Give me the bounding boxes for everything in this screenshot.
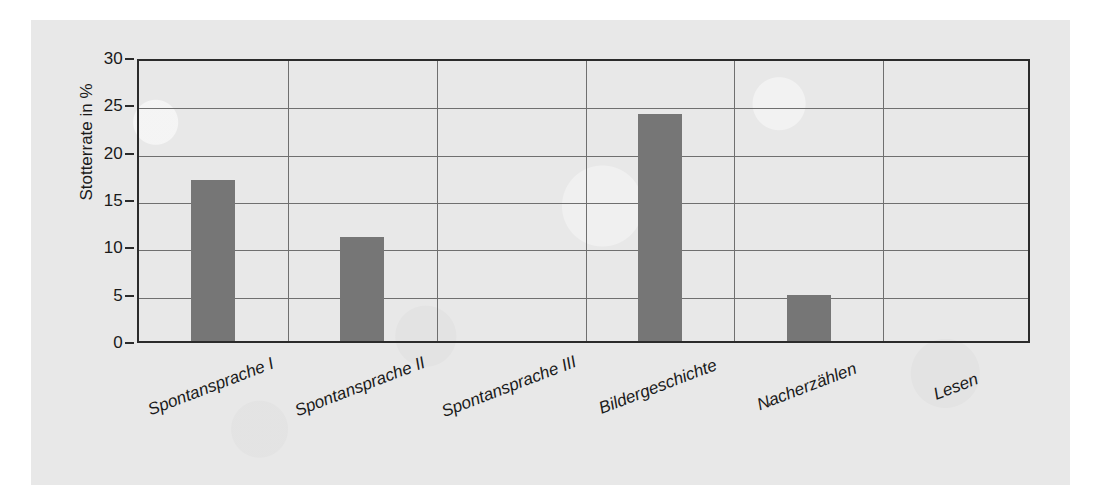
y-tick-label-5: 5 xyxy=(113,286,123,306)
x-tick-label-lesen: Lesen xyxy=(930,369,980,404)
category-separator-2 xyxy=(437,61,438,341)
y-tick-label-15: 15 xyxy=(104,191,123,211)
y-tick-mark-0 xyxy=(125,342,134,344)
y-tick-mark-20 xyxy=(125,153,134,155)
y-tick-label-0: 0 xyxy=(113,333,123,353)
gridline-25 xyxy=(139,108,1028,109)
bar-spontansprache-ii xyxy=(340,237,384,341)
y-tick-label-10: 10 xyxy=(104,238,123,258)
y-tick-mark-30 xyxy=(125,58,134,60)
gridline-10 xyxy=(139,250,1028,251)
y-tick-mark-5 xyxy=(125,295,134,297)
gridline-20 xyxy=(139,156,1028,157)
bar-nacherzaehlen xyxy=(787,295,831,341)
gridline-5 xyxy=(139,298,1028,299)
x-tick-label-bildergeschichte: Bildergeschichte xyxy=(596,355,720,418)
x-axis: Spontansprache I Spontansprache II Spont… xyxy=(137,343,1030,483)
y-tick-mark-25 xyxy=(125,105,134,107)
y-tick-label-25: 25 xyxy=(104,96,123,116)
x-tick-label-spontansprache-ii: Spontansprache II xyxy=(292,353,428,421)
x-tick-label-spontansprache-i: Spontansprache I xyxy=(146,354,278,420)
plot-area xyxy=(137,59,1030,343)
x-category-2: Spontansprache II xyxy=(286,343,435,483)
y-axis: 30 25 20 15 10 5 0 xyxy=(31,20,137,344)
x-tick-label-spontansprache-iii: Spontansprache III xyxy=(439,352,579,422)
bar-spontansprache-i xyxy=(191,180,235,341)
category-separator-3 xyxy=(586,61,587,341)
x-category-3: Spontansprache III xyxy=(435,343,584,483)
category-separator-5 xyxy=(883,61,884,341)
gridline-15 xyxy=(139,203,1028,204)
figure-panel: Stotterrate in % 30 25 20 15 10 5 0 xyxy=(31,20,1070,485)
x-category-1: Spontansprache I xyxy=(137,343,286,483)
x-tick-label-nacherzaehlen: Nacherzählen xyxy=(754,359,859,415)
x-category-5: Nacherzählen xyxy=(732,343,881,483)
x-category-6: Lesen xyxy=(881,343,1030,483)
category-separator-1 xyxy=(288,61,289,341)
y-tick-label-30: 30 xyxy=(104,49,123,69)
y-tick-mark-10 xyxy=(125,247,134,249)
bar-bildergeschichte xyxy=(638,114,682,341)
y-tick-mark-15 xyxy=(125,200,134,202)
y-tick-label-20: 20 xyxy=(104,144,123,164)
category-separator-4 xyxy=(734,61,735,341)
x-category-4: Bildergeschichte xyxy=(584,343,733,483)
